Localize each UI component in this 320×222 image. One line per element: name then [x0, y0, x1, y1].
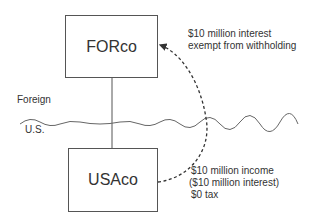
usaco-label: USAco: [88, 171, 138, 189]
interest-payment-arrow: [158, 45, 207, 182]
usaco-note-line-1: $10 million income: [189, 165, 279, 177]
forco-label: FORco: [86, 38, 137, 56]
payment-note-line-1: $10 million interest: [188, 28, 296, 40]
forco-box: FORco: [65, 15, 158, 78]
usaco-note: $10 million income ($10 million interest…: [189, 165, 279, 201]
border-wave: [20, 113, 298, 131]
payment-note: $10 million interest exempt from withhol…: [188, 28, 296, 52]
payment-note-line-2: exempt from withholding: [188, 40, 296, 52]
us-label: U.S.: [25, 124, 44, 136]
usaco-note-line-3: $0 tax: [189, 189, 279, 201]
usaco-box: USAco: [68, 148, 158, 212]
foreign-label: Foreign: [17, 94, 51, 106]
usaco-note-line-2: ($10 million interest): [189, 177, 279, 189]
